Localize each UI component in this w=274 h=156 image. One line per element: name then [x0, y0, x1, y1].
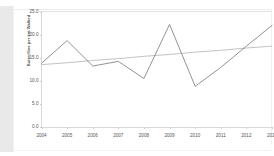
chart-figure: Butterflies per km Walked 0.05.010.015.0… — [0, 0, 274, 156]
plot-series-layer — [0, 0, 274, 156]
